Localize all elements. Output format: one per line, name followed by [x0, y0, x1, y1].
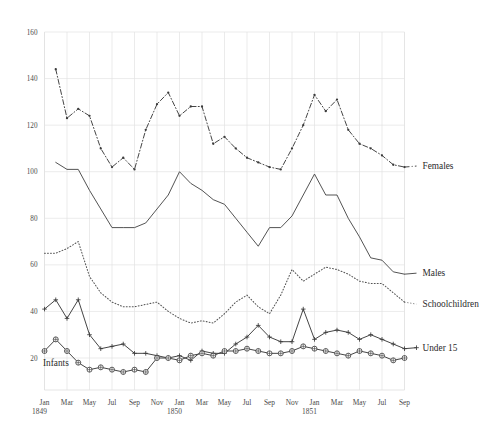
chart-background: [0, 0, 497, 446]
series-name-label: Schoolchildren: [423, 299, 480, 309]
data-point: [178, 115, 180, 117]
data-point: [143, 369, 148, 374]
data-point: [42, 349, 47, 354]
data-point: [312, 346, 317, 351]
data-point: [65, 349, 70, 354]
data-point: [346, 353, 351, 358]
data-point: [336, 98, 338, 100]
data-point: [381, 154, 383, 156]
data-point: [325, 110, 327, 112]
data-point: [235, 147, 237, 149]
data-point: [167, 91, 169, 93]
y-tick-label: 20: [30, 355, 38, 363]
data-point: [302, 124, 304, 126]
y-tick-label: 80: [30, 215, 38, 223]
x-tick-label: Mar: [61, 398, 74, 407]
data-point: [88, 115, 90, 117]
data-point: [53, 337, 58, 342]
data-point: [291, 147, 293, 149]
x-tick-label: Jul: [378, 398, 387, 407]
data-point: [313, 94, 315, 96]
data-point: [77, 108, 79, 110]
x-tick-label: Nov: [151, 398, 164, 407]
data-point: [268, 166, 270, 168]
x-tick-label: May: [218, 398, 232, 407]
x-tick-label: May: [353, 398, 367, 407]
data-point: [257, 161, 259, 163]
x-tick-label: May: [83, 398, 97, 407]
x-tick-label: Mar: [196, 398, 209, 407]
data-point: [87, 367, 92, 372]
x-axis-year-label: 1851: [302, 407, 317, 416]
data-point: [110, 367, 115, 372]
data-point: [223, 136, 225, 138]
data-point: [335, 351, 340, 356]
data-point: [380, 353, 385, 358]
data-point: [122, 157, 124, 159]
y-tick-label: 60: [30, 261, 38, 269]
data-point: [166, 356, 171, 361]
y-tick-label: 140: [27, 75, 38, 83]
line-chart: FemalesMalesSchoolchildrenUnder 15Infant…: [0, 0, 497, 446]
data-point: [100, 147, 102, 149]
data-point: [145, 129, 147, 131]
x-tick-label: Jul: [243, 398, 252, 407]
data-point: [370, 147, 372, 149]
data-point: [245, 346, 250, 351]
data-point: [111, 166, 113, 168]
series-name-label: Females: [423, 161, 454, 171]
data-point: [190, 105, 192, 107]
data-point: [177, 358, 182, 363]
data-point: [222, 349, 227, 354]
data-point: [66, 117, 68, 119]
data-point: [278, 351, 283, 356]
data-point: [132, 367, 137, 372]
y-tick-label: 160: [27, 29, 38, 37]
data-point: [76, 360, 81, 365]
data-point: [357, 349, 362, 354]
x-tick-label: Sep: [399, 398, 410, 407]
x-tick-label: Sep: [264, 398, 275, 407]
data-point: [211, 353, 216, 358]
data-point: [368, 351, 373, 356]
data-point: [256, 349, 261, 354]
data-point: [98, 365, 103, 370]
x-tick-label: Jan: [310, 398, 320, 407]
data-point: [155, 356, 160, 361]
x-tick-label: Nov: [286, 398, 299, 407]
data-point: [121, 369, 126, 374]
data-point: [358, 143, 360, 145]
data-point: [402, 356, 407, 361]
y-tick-label: 40: [30, 308, 38, 316]
data-point: [201, 105, 203, 107]
data-point: [200, 351, 205, 356]
data-point: [156, 103, 158, 105]
x-axis-year-label: 1850: [167, 407, 182, 416]
data-point: [133, 168, 135, 170]
data-point: [391, 358, 396, 363]
x-axis-year-label: 1849: [32, 407, 47, 416]
series-name-label: Males: [423, 268, 446, 278]
y-tick-label: 120: [27, 122, 38, 130]
y-tick-label: 100: [27, 168, 38, 176]
x-tick-label: Sep: [129, 398, 140, 407]
x-tick-label: Jan: [40, 398, 50, 407]
x-tick-label: Jan: [175, 398, 185, 407]
data-point: [212, 143, 214, 145]
data-point: [323, 349, 328, 354]
data-point: [267, 351, 272, 356]
x-tick-label: Jul: [108, 398, 117, 407]
series-name-label-infants: Infants: [43, 358, 69, 368]
data-point: [55, 68, 57, 70]
series-name-label: Under 15: [423, 343, 458, 353]
data-point: [188, 353, 193, 358]
data-point: [290, 349, 295, 354]
data-point: [392, 164, 394, 166]
data-point: [233, 349, 238, 354]
data-point: [280, 168, 282, 170]
data-point: [246, 157, 248, 159]
data-point: [301, 344, 306, 349]
chart-container: FemalesMalesSchoolchildrenUnder 15Infant…: [0, 0, 497, 446]
x-tick-label: Mar: [331, 398, 344, 407]
data-point: [347, 129, 349, 131]
